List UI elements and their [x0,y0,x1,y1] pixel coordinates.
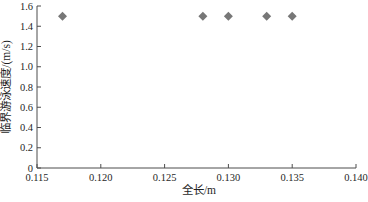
y-tick-label: 1.6 [20,1,33,12]
y-tick-label: 1.4 [20,21,34,32]
x-tick-label: 0.130 [217,172,241,183]
diamond-marker [288,12,297,21]
y-tick-label: 0.4 [20,122,34,133]
axis-ticks [37,6,356,168]
axis-tick-labels: 0.1150.1200.1250.1300.1350.14000.20.40.6… [20,1,368,184]
diamond-marker [224,12,233,21]
axis-spines [37,6,356,168]
y-tick-label: 1.0 [20,61,33,72]
scatter-chart-canvas: 0.1150.1200.1250.1300.1350.14000.20.40.6… [0,0,368,202]
diamond-marker [58,12,67,21]
diamond-marker [198,12,207,21]
data-points [58,12,297,21]
x-tick-label: 0.125 [153,172,177,183]
diamond-marker [262,12,271,21]
y-axis-label: 临界游泳速度/(m/s) [0,40,13,134]
y-tick-label: 0.2 [20,142,33,153]
x-axis-label: 全长/m [182,183,216,196]
x-tick-label: 0.115 [25,172,48,183]
y-tick-label: 0.6 [20,102,33,113]
axes [37,6,356,168]
x-tick-label: 0.120 [89,172,113,183]
y-tick-label: 1.2 [20,41,33,52]
scatter-chart-figure: 0.1150.1200.1250.1300.1350.14000.20.40.6… [0,0,368,202]
y-tick-label: 0 [28,163,33,174]
x-tick-label: 0.140 [344,172,368,183]
y-tick-label: 0.8 [20,82,33,93]
x-tick-label: 0.135 [280,172,304,183]
